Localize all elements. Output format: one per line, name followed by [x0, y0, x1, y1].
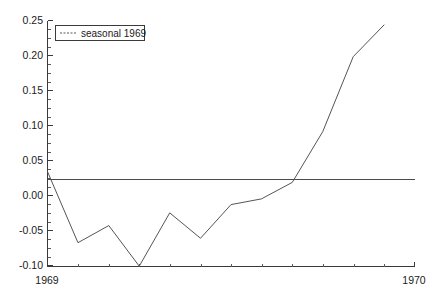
x-tick-label: 1969	[35, 274, 59, 286]
y-tick-label: 0.15	[23, 84, 44, 96]
y-tick-label: 0.10	[23, 119, 44, 131]
y-tick-label: -0.10	[19, 259, 43, 271]
chart-figure: 0.25 0.20 0.15 0.10 0.05 0.00 -0.05 -0.1…	[0, 0, 445, 298]
y-axis-group: 0.25 0.20 0.15 0.10 0.05 0.00 -0.05 -0.1…	[19, 14, 52, 271]
x-axis-group: 1969 1970	[35, 262, 426, 287]
y-tick-label: -0.05	[19, 224, 43, 236]
line-chart: 0.25 0.20 0.15 0.10 0.05 0.00 -0.05 -0.1…	[0, 0, 445, 298]
y-tick-label: 0.20	[23, 49, 44, 61]
y-tick-label: 0.05	[23, 154, 44, 166]
y-tick-label: 0.00	[23, 189, 44, 201]
legend-label: seasonal 1969	[81, 28, 146, 39]
series-line-seasonal-1969	[48, 25, 385, 266]
legend[interactable]: seasonal 1969	[56, 26, 147, 41]
x-tick-label: 1970	[402, 274, 426, 286]
y-tick-label: 0.25	[23, 14, 44, 26]
